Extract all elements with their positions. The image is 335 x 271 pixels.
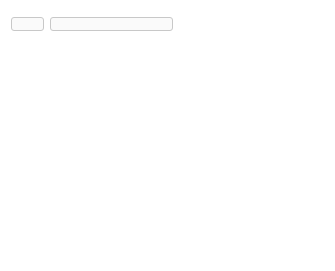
attention-lines [0, 0, 335, 271]
